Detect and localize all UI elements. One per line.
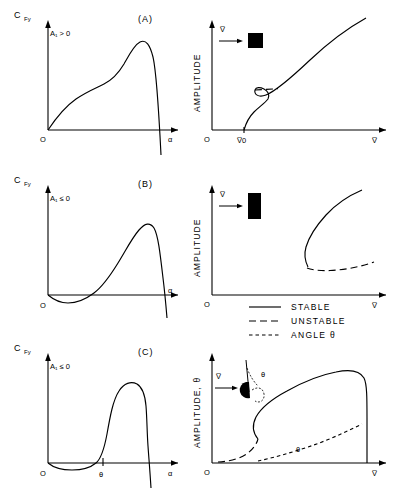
amplitude-stable-curve-c [254,371,367,463]
amplitude-unstable-curve-b [307,262,374,271]
legend-item-stable: STABLE [249,302,331,312]
y-axis-label-a-right: AMPLITUDE [192,53,202,112]
y-axis-arrow-b-right [209,185,215,193]
inset-sketch-c: V̅ θ [215,360,265,402]
x-axis-label-a-right: V̅ [371,136,377,145]
amplitude-unstable-curve-c [218,439,258,462]
inset-angle-label-c: θ [261,370,265,379]
amplitude-stable-curve-b [305,190,362,267]
panel-a-right-plot: AMPLITUDE O V̅0 V̅ [192,18,386,145]
v0-label-a: V̅0 [236,136,246,145]
y-axis-arrow-c-right [209,353,215,361]
y-axis-label-c-left: C [14,343,21,353]
panel-c: C Fy O θ α A₁ ≤ 0 (C) AMPLITUDE, θ O V̅ … [0,320,395,495]
y-axis-label-a-left: C [14,10,21,20]
y-axis-label-c-right: AMPLITUDE, θ [192,377,202,448]
inset-flow-label-a: V̅ [219,25,225,34]
panel-b-right-plot: AMPLITUDE O V̅ [192,185,386,310]
flow-arrow-c [232,386,238,390]
x-axis-arrow-b-right [379,292,386,298]
origin-label-c-left: O [40,469,46,478]
inset-flow-label-c: V̅ [215,372,221,381]
condition-label-b: A₁ ≤ 0 [50,194,70,203]
panel-a: C Fy O α A₁ > 0 (A) AMPLITUDE O V̅0 V̅ V… [0,0,395,160]
legend-label-stable: STABLE [291,302,331,312]
condition-label-c: A₁ ≤ 0 [50,362,70,371]
inset-sketch-b: V̅ [219,190,261,219]
flow-arrow-b [237,204,243,208]
x-axis-label-c-left: α [168,469,173,478]
flow-arrow-a [237,39,243,43]
panel-letter-c: (C) [138,347,154,357]
panel-letter-a: (A) [138,14,153,24]
inset-sketch-a: V̅ [219,25,263,48]
x-axis-arrow-c-left [171,460,178,466]
y-axis-label-b-left: C [14,175,21,185]
panel-c-right-plot: AMPLITUDE, θ O V̅ θ [192,353,386,478]
body-dsection-icon-c [240,382,250,398]
x-axis-arrow-c-right [379,460,386,466]
y-axis-arrow-a-left [45,20,51,28]
y-axis-arrow-b-left [45,185,51,193]
origin-label-a-left: O [40,135,46,144]
panel-b: C Fy O α A₁ ≤ 0 (B) AMPLITUDE O V̅ V̅ [0,160,395,320]
panel-c-left-plot: C Fy O θ α A₁ ≤ 0 [14,343,178,488]
y-axis-label-b-right: AMPLITUDE [192,218,202,277]
x-axis-label-b-left: α [168,286,173,295]
inset-flow-label-b: V̅ [219,190,225,199]
y-axis-arrow-a-right [209,20,215,28]
theta-curve-annotation-c: θ [296,445,300,454]
x-axis-label-a-left: α [168,135,173,144]
cfy-curve-a [48,41,161,155]
y-axis-label-sub-a-left: Fy [24,16,31,22]
origin-label-b-left: O [40,301,46,310]
panel-a-left-plot: C Fy O α A₁ > 0 [14,10,178,155]
x-axis-arrow-a-left [171,127,178,133]
y-axis-label-sub-b-left: Fy [24,181,31,187]
origin-label-c-right: O [204,468,210,477]
theta-tick-label-c: θ [99,470,103,479]
body-square-icon-a [248,33,263,48]
x-axis-arrow-a-right [379,127,386,133]
body-rectangle-icon-b [248,193,261,219]
figure-root: C Fy O α A₁ > 0 (A) AMPLITUDE O V̅0 V̅ V… [0,0,395,495]
y-axis-label-sub-c-left: Fy [24,349,31,355]
panel-b-left-plot: C Fy O α A₁ ≤ 0 [14,175,178,318]
x-axis-label-c-right: V̅ [371,469,377,478]
cfy-curve-b [48,224,167,318]
y-axis-arrow-c-left [45,353,51,361]
condition-label-a: A₁ > 0 [50,29,70,38]
panel-letter-b: (B) [138,179,153,189]
origin-label-b-right: O [204,300,210,309]
origin-label-a-right: O [204,135,210,144]
angle-theta-curve-c [258,424,362,461]
